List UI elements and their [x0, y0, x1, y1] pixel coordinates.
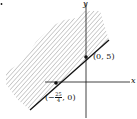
y-axis-label: y	[83, 0, 88, 8]
x-axis-label: x	[131, 77, 136, 85]
corner-mark	[1, 3, 3, 5]
x-intercept-suffix: , 0)	[62, 93, 75, 102]
x-intercept-label: (−254, 0)	[45, 92, 76, 103]
point-x-intercept	[54, 81, 58, 85]
y-intercept-label: (0, 5)	[93, 53, 115, 61]
x-intercept-prefix: (−	[45, 93, 55, 102]
point-y-intercept	[84, 55, 88, 59]
